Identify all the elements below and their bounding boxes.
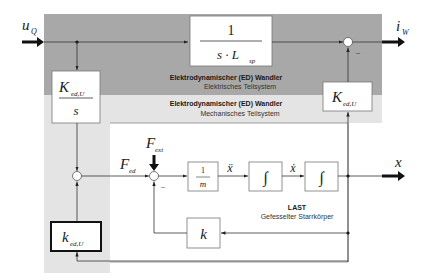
current-summing-junction	[344, 38, 353, 47]
velocity-feedback-gain-block: k ed,U	[51, 222, 101, 251]
svg-text:sp: sp	[249, 57, 256, 65]
svg-text:Q: Q	[31, 27, 37, 36]
svg-text:s: s	[73, 103, 78, 118]
velocity-label: ẋ	[289, 161, 296, 175]
load-region-title: LAST	[288, 204, 307, 211]
force-gain-integrator-block: K ed,U s	[52, 71, 100, 123]
mass-summing-junction	[150, 172, 159, 181]
integrator-2-block: ∫	[305, 162, 338, 191]
inductance-block: 1 s · L sp	[190, 16, 272, 66]
svg-text:i: i	[396, 18, 400, 34]
input-thick-arrow	[22, 37, 44, 47]
svg-text:1: 1	[201, 166, 205, 175]
mechanical-region-title: Elektrodynamischer (ED) Wandler	[170, 100, 283, 108]
svg-text:u: u	[22, 17, 30, 33]
svg-text:1: 1	[228, 23, 235, 38]
back-emf-gain-block: K ed,U	[323, 82, 372, 111]
svg-text:k: k	[200, 226, 207, 242]
position-label: x	[394, 154, 402, 170]
output-current-label: i W	[396, 18, 410, 37]
input-voltage-label: u Q	[22, 17, 37, 36]
svg-text:W: W	[402, 28, 410, 37]
electrical-region-subtitle: Elektrisches Teilsystem	[204, 83, 276, 91]
output-current-thick-arrow	[382, 37, 405, 47]
block-diagram: Elektrodynamischer (ED) Wandler Elektris…	[0, 0, 427, 280]
mechanical-region-subtitle: Mechanisches Teilsystem	[200, 110, 279, 118]
svg-text:m: m	[200, 179, 207, 189]
svg-text:ext: ext	[155, 146, 164, 154]
svg-text:ed,U: ed,U	[70, 240, 84, 248]
svg-text:ed: ed	[129, 167, 136, 175]
electrical-region-title: Elektrodynamischer (ED) Wandler	[170, 74, 283, 82]
svg-text:K: K	[331, 89, 343, 105]
svg-text:s · L: s · L	[217, 47, 239, 62]
force-summing-junction	[73, 172, 82, 181]
stiffness-block: k	[187, 218, 220, 248]
acceleration-label: ẍ	[226, 161, 233, 175]
svg-text:ed,U: ed,U	[343, 100, 357, 108]
integrator-1-block: ∫	[249, 162, 282, 191]
inverse-mass-block: 1 m	[188, 162, 218, 191]
svg-text:k: k	[62, 229, 69, 245]
position-output-thick-arrow	[382, 171, 405, 181]
svg-text:K: K	[58, 79, 70, 95]
svg-text:ed,U: ed,U	[71, 90, 85, 98]
load-region-subtitle: Gefesselter Starrkörper	[261, 213, 334, 221]
